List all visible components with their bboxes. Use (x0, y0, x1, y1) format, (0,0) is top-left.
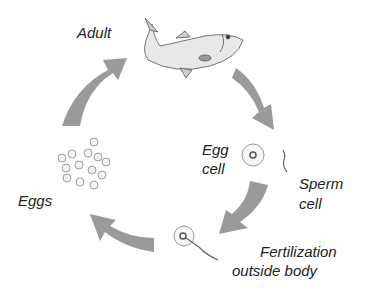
label-eggs: Eggs (18, 192, 52, 210)
salmon-icon (144, 18, 243, 78)
sperm-cell-icon (283, 150, 287, 172)
eggs-cluster-icon (58, 138, 110, 189)
label-fertilization-1: Fertilization (260, 243, 337, 261)
egg-cell-icon (242, 144, 264, 166)
arrow-adult-to-egg (232, 68, 274, 130)
label-egg-cell-1: Egg (202, 141, 229, 159)
label-fertilization-2: outside body (232, 262, 317, 280)
arrow-eggs-to-adult (62, 58, 127, 126)
arrow-fert-to-eggs (90, 214, 154, 252)
label-egg-cell-2: cell (202, 160, 225, 178)
label-sperm-1: Sperm (299, 175, 343, 193)
arrow-sperm-to-fert (219, 181, 268, 234)
fertilization-icon (174, 226, 218, 260)
label-adult: Adult (77, 24, 111, 42)
label-sperm-2: cell (299, 195, 322, 213)
